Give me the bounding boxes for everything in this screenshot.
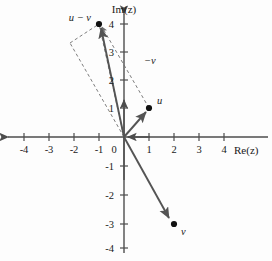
point-u-minus-v [96, 21, 102, 27]
x-tick-label--4: -4 [20, 144, 29, 155]
construction-parallelogram [70, 24, 124, 137]
x-tick-label-2: 2 [171, 144, 176, 155]
y-tick-label--2: -2 [105, 190, 114, 201]
x-tick-label--3: -3 [45, 144, 54, 155]
parallelogram-edge-origin-to-corner [70, 43, 124, 137]
y-tick-label--1: -1 [105, 161, 114, 172]
y-tick-label-3: 3 [109, 47, 114, 58]
label-minus-v: −v [144, 55, 156, 66]
y-tick-label-2: 2 [109, 75, 114, 86]
parallelogram-edge-corner-to-tip [70, 24, 99, 43]
y-axis-title: Im(z) [112, 3, 137, 16]
x-tick-label--2: -2 [70, 144, 79, 155]
x-tick-label--1: -1 [95, 144, 104, 155]
point-u [146, 105, 152, 111]
axes-group [8, 14, 268, 253]
x-axis-title: Re(z) [234, 144, 259, 157]
y-tick-label--3: -3 [105, 219, 114, 230]
y-tick-label-4: 4 [109, 19, 115, 30]
y-tick-label-1: 1 [109, 103, 114, 114]
vector-u [124, 112, 146, 137]
x-tick-label-3: 3 [196, 144, 201, 155]
point-v [171, 221, 177, 227]
label-u-minus-v: u − v [69, 12, 92, 23]
label-v: v [181, 226, 186, 237]
label-u: u [157, 95, 162, 106]
x-tick-label-4: 4 [221, 144, 227, 155]
x-tick-label-1: 1 [146, 144, 151, 155]
complex-plane-plot: -4 -3 -2 -1 1 2 3 4 4 3 2 1 -1 -2 -3 -4 … [0, 0, 272, 261]
origin-label: 0 [111, 144, 116, 155]
argand-diagram-figure: -4 -3 -2 -1 1 2 3 4 4 3 2 1 -1 -2 -3 -4 … [0, 0, 272, 261]
y-tick-label--4: -4 [105, 243, 114, 254]
